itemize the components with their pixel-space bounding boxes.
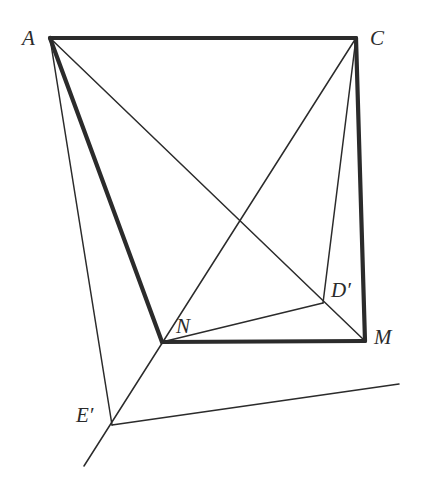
segment-Ep-Dp-extended: [112, 384, 399, 425]
segment-C-Ep: [84, 38, 356, 466]
geometry-figure-canvas: A C N M D′ E′: [0, 0, 432, 481]
vertex-label-E-prime: E′: [76, 405, 93, 426]
segment-N-A: [50, 38, 162, 342]
vertex-label-N: N: [176, 316, 190, 337]
segment-C-Dp: [323, 38, 356, 303]
segment-A-M: [50, 38, 365, 341]
segment-C-M: [356, 38, 365, 341]
geometry-figure-svg: [0, 0, 432, 481]
vertex-label-A: A: [22, 28, 35, 49]
vertex-label-M: M: [374, 327, 392, 348]
vertex-label-C: C: [370, 28, 384, 49]
construction-lines-group: [50, 38, 399, 466]
segment-M-N: [162, 341, 365, 342]
vertex-label-D-prime: D′: [331, 280, 351, 301]
segment-A-Ep: [50, 38, 112, 425]
